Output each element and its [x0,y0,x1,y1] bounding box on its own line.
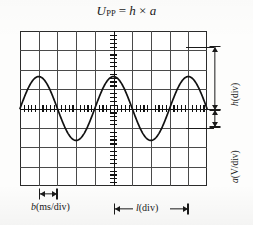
figure-canvas: UPP=h×a [0,0,253,225]
label-b-msdiv: b(ms/div) [31,201,70,212]
formula-times-icon: × [139,3,147,18]
label-a-vdiv-unit: (V/div) [230,150,240,178]
sine-wave-trace [20,31,207,186]
formula-rhs-second: a [150,3,157,18]
label-a-vdiv: a(V/div) [230,150,240,183]
formula-equals: = [119,3,127,18]
arrow-left-icon [115,206,120,212]
arrow-right-icon [183,206,188,212]
label-h-div-symbol: h [230,101,240,106]
formula-lhs-subscript: PP [106,8,115,18]
label-a-vdiv-symbol: a [230,178,240,183]
arrow-down-icon [212,122,218,127]
oscilloscope-screen [20,31,207,186]
arrow-right-icon [52,191,57,197]
dimension-b-msdiv [38,188,58,200]
label-l-div: l(div) [136,202,158,213]
formula-caption: UPP=h×a [0,3,253,19]
formula-rhs-first: h [129,3,136,18]
label-h-div-unit: (div) [230,83,240,101]
dimension-h-div [208,44,222,112]
label-b-msdiv-unit: (ms/div) [36,201,70,212]
arrow-up-icon [212,110,218,115]
label-l-div-unit: (div) [139,202,158,213]
label-h-div: h(div) [230,83,240,106]
arrow-up-icon [212,47,218,52]
dimension-a-vdiv [208,107,222,129]
formula-lhs-symbol: U [96,3,106,18]
arrow-left-icon [40,191,45,197]
